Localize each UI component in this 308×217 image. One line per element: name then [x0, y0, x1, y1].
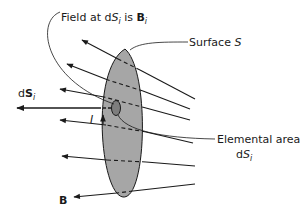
label-current: I — [90, 113, 93, 126]
label-elemental-area: Elemental area — [217, 133, 300, 146]
leader-field-at — [48, 12, 114, 104]
flux-diagram: Field at dSi is Bi Surface S Elemental a… — [0, 0, 308, 217]
label-elemental-ds: dSi — [236, 148, 253, 163]
label-surface: Surface S — [189, 36, 241, 49]
elemental-area-ds — [112, 101, 121, 116]
leader-surface — [130, 42, 188, 50]
label-dS-vector: dSi — [18, 87, 36, 102]
surface-s — [102, 49, 142, 197]
label-field-b: B — [59, 194, 67, 207]
diagram-canvas: Field at dSi is Bi Surface S Elemental a… — [0, 0, 308, 217]
label-field-at: Field at dSi is Bi — [61, 11, 148, 26]
